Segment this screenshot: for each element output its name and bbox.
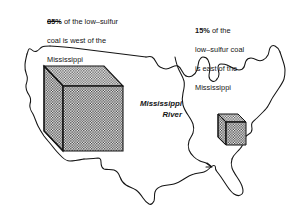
west-percent-value: 85% [47,17,62,26]
mississippi-river-label: Mississippi River [120,98,182,120]
east-annotation-line4: Mississippi [195,83,231,92]
west-block-front-face [63,86,123,151]
east-annotation: 15% of the low–sulfur coal is east of th… [195,16,273,93]
river-label-line1: Mississippi [140,99,182,108]
west-coal-block [44,66,123,151]
east-percent-value: 15% [195,26,210,35]
coal-distribution-figure: 85% of the low–sulfur coal is west of th… [0,0,301,222]
east-annotation-line1-rest: of the [210,26,231,35]
east-annotation-line3: is east of the [195,64,237,73]
west-annotation-line1-rest: of the low–sulfur [62,17,118,26]
east-block-front-face [226,122,246,145]
east-annotation-line2: low–sulfur coal [195,45,244,54]
river-label-line2: River [162,110,182,119]
west-annotation-line2: coal is west of the [47,36,106,45]
east-coal-block [218,114,246,145]
west-annotation-line3: Mississippi [47,55,83,64]
west-annotation: 85% of the low–sulfur coal is west of th… [47,7,159,65]
